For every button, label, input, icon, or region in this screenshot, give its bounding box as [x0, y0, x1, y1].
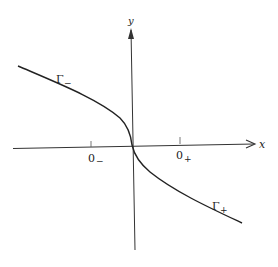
x-axis: x [13, 138, 266, 151]
svg-text:+: + [220, 205, 228, 215]
tick-label: 0 [88, 152, 95, 165]
label-gamma-plus: Γ + [212, 200, 228, 215]
tick-label: 0 [176, 149, 183, 162]
label-gamma-minus: Γ − [56, 73, 72, 88]
svg-text:−: − [64, 78, 72, 88]
tick-subscript: − [96, 156, 104, 166]
y-axis-arrow-icon [128, 28, 134, 39]
y-axis: y [127, 15, 135, 250]
x-axis-label: x [259, 138, 266, 151]
svg-text:Γ: Γ [56, 73, 64, 86]
svg-text:Γ: Γ [212, 200, 220, 213]
y-axis-label: y [127, 15, 134, 26]
tick-o-plus: 0 + [176, 137, 192, 164]
tick-subscript: + [184, 154, 192, 164]
tick-o-minus: 0 − [88, 141, 104, 166]
phase-diagram: x y 0 − 0 + Γ − Γ + [0, 0, 278, 267]
